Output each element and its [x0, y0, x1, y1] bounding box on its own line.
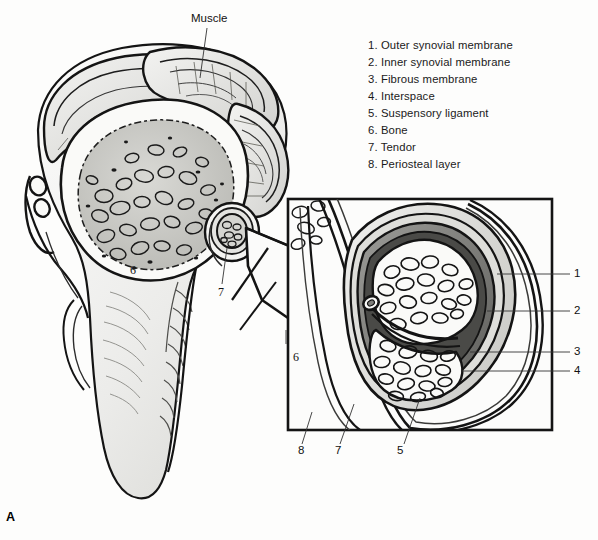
legend-item-7: 7. Tendor [368, 139, 578, 156]
legend-list: 1. Outer synovial membrane 2. Inner syno… [368, 37, 578, 173]
callout-7-tendon: 7 [218, 286, 224, 298]
legend-item-6: 6. Bone [368, 122, 578, 139]
vessel-lower [32, 197, 53, 219]
legend-item-1: 1. Outer synovial membrane [368, 37, 578, 54]
callout-5: 5 [397, 445, 403, 457]
callout-7-panel: 7 [335, 445, 341, 457]
magnified-panel [288, 196, 570, 444]
callout-8: 8 [298, 445, 304, 457]
callout-1: 1 [574, 268, 580, 280]
callout-6-bone: 6 [130, 264, 136, 276]
legend-item-3: 3. Fibrous membrane [368, 71, 578, 88]
legend-item-5: 5. Suspensory ligament [368, 105, 578, 122]
legend-item-8: 8. Periosteal layer [368, 156, 578, 173]
legend-item-2: 2. Inner synovial membrane [368, 54, 578, 71]
callout-2: 2 [574, 305, 580, 317]
muscle-label: Muscle [191, 12, 227, 24]
callout-4: 4 [574, 365, 580, 377]
anatomy-figure: Muscle 1. Outer synovial membrane 2. Inn… [0, 0, 598, 540]
callout-3: 3 [574, 346, 580, 358]
figure-panel-letter: A [6, 510, 15, 524]
callout-6-bone-lower: 6 [293, 351, 299, 363]
legend-item-4: 4. Interspace [368, 88, 578, 105]
